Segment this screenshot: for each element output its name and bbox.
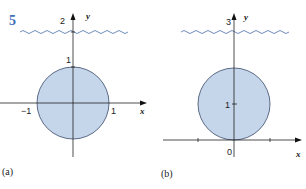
y-axis-label-a: y [85,11,91,21]
x-arrow-icon-a [140,101,147,106]
panel-a: 2 y 1 −1 1 x (a) [0,11,147,178]
y-axis-label-b: y [243,12,249,22]
y-arrow-icon-a [71,13,76,20]
x-axis-label-b: x [295,149,301,159]
origin-label-b: 0 [227,147,232,157]
x-pos-label-a: 1 [111,106,116,116]
caption-b: (b) [161,168,173,180]
y-arrow-icon-b [232,13,237,20]
x-axis-label-a: x [139,106,145,116]
caption-a: (a) [2,166,13,178]
figure-canvas: 5 2 y 1 −1 1 x (a) 3 [0,0,306,189]
x-neg-label-a: −1 [21,106,31,116]
y-tick-label-a: 1 [66,55,71,65]
figure-number: 5 [9,13,16,28]
y-tick-label-b: 1 [225,100,230,110]
y-top-label-a: 2 [60,16,65,26]
panel-b: 3 y 1 0 x (b) [161,12,302,180]
axis-break-wave-b [181,31,289,34]
y-top-label-b: 3 [226,17,231,27]
x-arrow-icon-b [295,138,302,143]
